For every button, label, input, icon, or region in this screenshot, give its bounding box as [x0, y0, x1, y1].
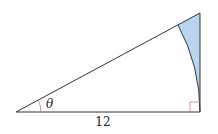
- triangle-diagram: θ 12: [0, 0, 218, 134]
- base-label: 12: [95, 115, 110, 129]
- angle-label: θ: [46, 97, 54, 111]
- shaded-region: [178, 13, 200, 112]
- right-angle-marker: [190, 102, 200, 112]
- hypotenuse: [16, 13, 200, 112]
- angle-marker: [38, 100, 41, 112]
